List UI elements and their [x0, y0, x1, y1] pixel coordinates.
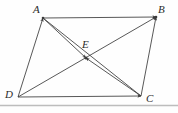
diagonal-AE [43, 18, 86, 58]
side-CB [141, 17, 156, 96]
diagonal-AC [43, 18, 141, 96]
vertex-label-b: B [158, 4, 165, 15]
vertex-point-A [42, 17, 45, 20]
vertex-label-e: E [82, 39, 89, 50]
diagonal-CE [86, 58, 141, 96]
side-AB [43, 17, 156, 18]
vertex-label-c: C [146, 93, 153, 104]
vertex-label-a: A [33, 4, 40, 15]
geometry-figure: A B C D E [0, 0, 178, 113]
vertex-point-B [155, 16, 158, 19]
side-DC [18, 96, 141, 97]
vertex-point-E [85, 57, 88, 60]
vertex-label-d: D [5, 89, 13, 100]
